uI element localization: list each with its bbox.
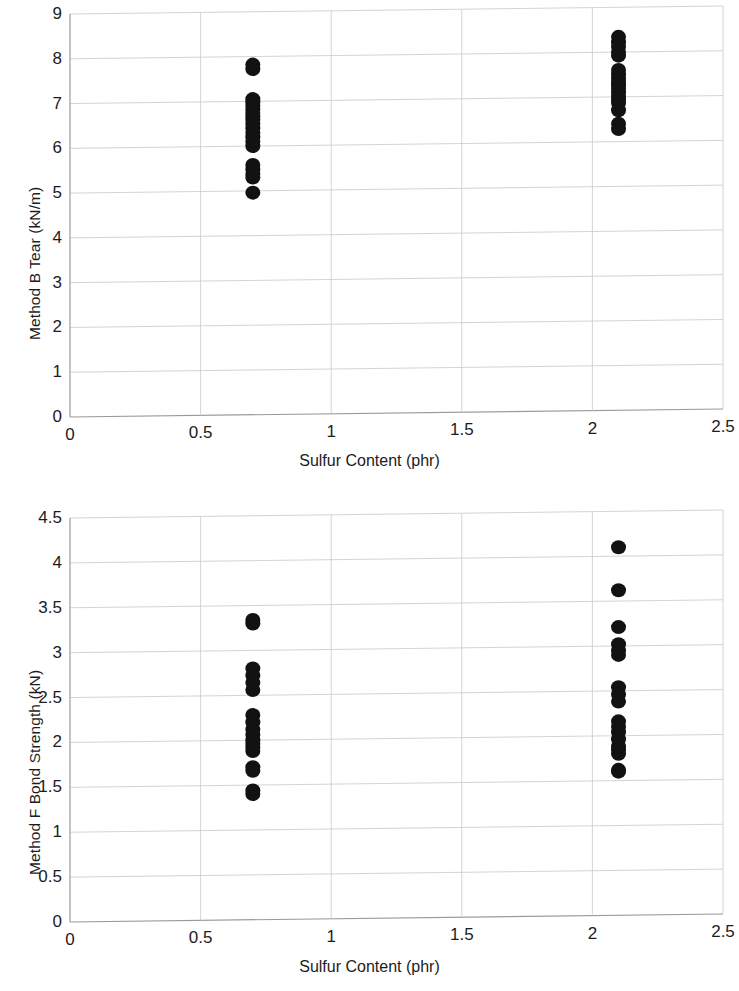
data-point — [611, 695, 626, 709]
data-point — [245, 683, 260, 697]
data-point — [611, 620, 626, 634]
data-point — [611, 747, 626, 761]
x-axis-tick-label: 0 — [65, 930, 74, 950]
plot-area-bottom — [0, 500, 739, 991]
data-point — [611, 765, 626, 779]
x-axis-label-bottom: Sulfur Content (phr) — [0, 958, 739, 976]
gridline-horizontal — [70, 779, 723, 787]
y-axis-tick-label: 5 — [12, 183, 62, 203]
data-point — [245, 186, 260, 200]
x-axis-tick-label: 1 — [326, 422, 335, 442]
y-axis-tick-label: 2.5 — [12, 688, 62, 708]
chart-method-b-tear: Method B Tear (kN/m) Sulfur Content (phr… — [0, 0, 739, 500]
y-axis-tick-label: 4 — [12, 228, 62, 248]
gridline-horizontal — [70, 6, 723, 14]
x-axis-tick-label: 1.5 — [450, 420, 474, 440]
data-point — [611, 103, 626, 117]
data-point — [611, 648, 626, 662]
chart-method-f-bond-strength: Method F Bond Strength (kN) Sulfur Conte… — [0, 500, 739, 991]
y-axis-tick-label: 1.5 — [12, 777, 62, 797]
x-axis-tick-label: 1 — [326, 927, 335, 947]
data-point — [611, 540, 626, 554]
data-point — [245, 744, 260, 758]
gridline-horizontal — [70, 555, 723, 563]
y-axis-tick-label: 8 — [12, 49, 62, 69]
y-axis-tick-label: 3 — [12, 643, 62, 663]
y-axis-tick-label: 3 — [12, 273, 62, 293]
y-axis-tick-label: 4 — [12, 553, 62, 573]
data-point — [611, 122, 626, 136]
y-axis-tick-label: 2 — [12, 732, 62, 752]
y-axis-tick-label: 1 — [12, 822, 62, 842]
y-axis-tick-label: 0 — [12, 912, 62, 932]
data-point — [611, 583, 626, 597]
y-axis-tick-label: 6 — [12, 138, 62, 158]
y-axis-tick-label: 0.5 — [12, 867, 62, 887]
data-point — [245, 139, 260, 153]
gridline-horizontal — [70, 364, 723, 372]
y-axis-tick-label: 1 — [12, 362, 62, 382]
gridline-horizontal — [70, 510, 723, 518]
y-axis-tick-label: 2 — [12, 317, 62, 337]
x-axis-tick-label: 2.5 — [711, 417, 735, 437]
x-axis-tick-label: 2 — [588, 924, 597, 944]
gridline-horizontal — [70, 409, 723, 417]
scatter-plot-bottom-svg — [0, 500, 739, 991]
gridline-horizontal — [70, 319, 723, 327]
data-point-group — [245, 540, 626, 801]
x-axis-tick-label: 0.5 — [189, 928, 213, 948]
y-axis-tick-label: 7 — [12, 94, 62, 114]
y-axis-tick-label: 4.5 — [12, 508, 62, 528]
gridline-horizontal — [70, 869, 723, 877]
data-point — [245, 62, 260, 76]
y-axis-tick-label: 9 — [12, 4, 62, 24]
gridline-horizontal — [70, 824, 723, 832]
data-point — [245, 764, 260, 778]
gridline-horizontal — [70, 275, 723, 283]
gridline-horizontal — [70, 230, 723, 238]
x-axis-tick-label: 0.5 — [189, 423, 213, 443]
gridline-horizontal — [70, 185, 723, 193]
x-axis-tick-label: 0 — [65, 425, 74, 445]
gridline-horizontal — [70, 140, 723, 148]
y-axis-tick-label: 3.5 — [12, 598, 62, 618]
data-point — [245, 787, 260, 801]
plot-area-top — [0, 0, 739, 500]
y-axis-tick-label: 0 — [12, 407, 62, 427]
x-axis-tick-label: 2.5 — [711, 922, 735, 942]
x-axis-tick-label: 2 — [588, 419, 597, 439]
data-point — [611, 49, 626, 63]
data-point — [245, 616, 260, 630]
data-point-group — [245, 30, 626, 200]
gridline-horizontal — [70, 600, 723, 608]
x-axis-label-top: Sulfur Content (phr) — [0, 452, 739, 470]
x-axis-tick-label: 1.5 — [450, 925, 474, 945]
gridline-horizontal — [70, 914, 723, 922]
scatter-plot-top-svg — [0, 0, 739, 500]
data-point — [245, 170, 260, 184]
